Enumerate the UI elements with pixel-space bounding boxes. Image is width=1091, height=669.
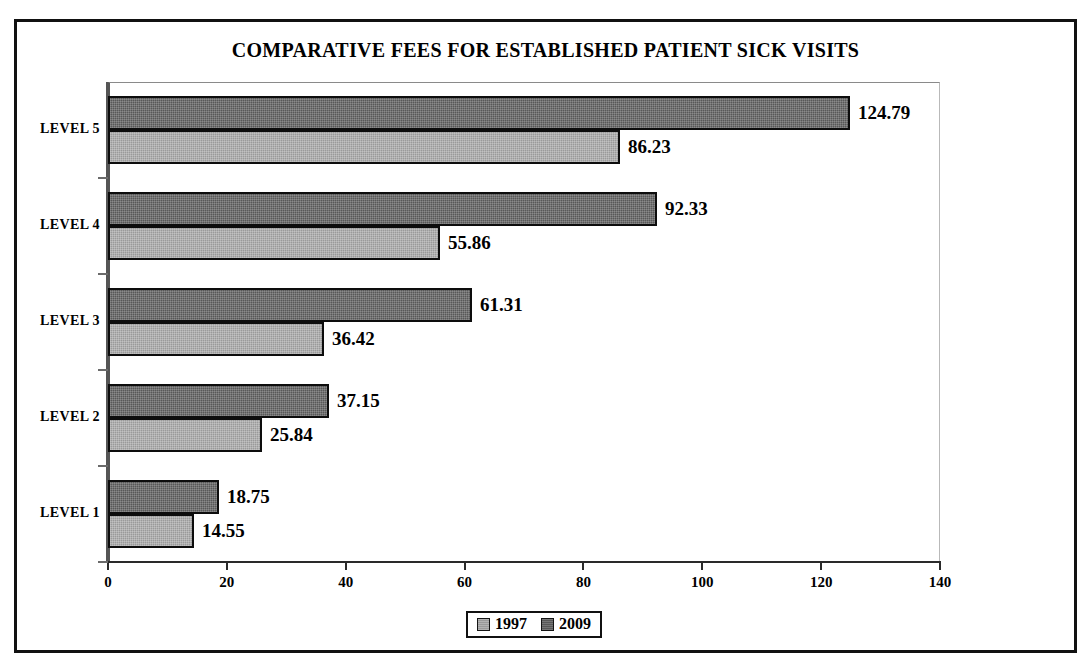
bar-2009-level-5[interactable] — [108, 96, 850, 130]
x-axis-tick — [345, 563, 347, 570]
x-axis-tick — [464, 563, 466, 570]
bar-2009-level-4[interactable] — [108, 192, 657, 226]
bar-row: 86.23 — [108, 130, 940, 164]
x-axis-tick — [226, 563, 228, 570]
legend-swatch-icon-1997 — [477, 618, 490, 631]
bar-value-label: 86.23 — [620, 130, 671, 164]
bar-row: 124.79 — [108, 96, 940, 130]
bar-row: 36.42 — [108, 322, 940, 356]
bar-row: 61.31 — [108, 288, 940, 322]
legend-swatch-icon-2009 — [541, 618, 554, 631]
bar-2009-level-1[interactable] — [108, 480, 219, 514]
chart-root: COMPARATIVE FEES FOR ESTABLISHED PATIENT… — [0, 0, 1091, 669]
bar-2009-level-3[interactable] — [108, 288, 472, 322]
x-axis-tick-label: 60 — [457, 574, 472, 591]
bar-row: 55.86 — [108, 226, 940, 260]
bar-row: 25.84 — [108, 418, 940, 452]
x-axis-tick-label: 20 — [219, 574, 234, 591]
chart-legend: 1997 2009 — [466, 611, 602, 638]
bar-value-label: 92.33 — [657, 192, 708, 226]
y-axis-tick — [98, 369, 108, 371]
bar-1997-level-1[interactable] — [108, 514, 194, 548]
x-axis-tick — [701, 563, 703, 570]
category-label-level-4: LEVEL 4 — [8, 217, 100, 233]
legend-label-2009: 2009 — [559, 616, 591, 632]
category-label-level-1: LEVEL 1 — [8, 505, 100, 521]
bar-1997-level-3[interactable] — [108, 322, 324, 356]
legend-item-1997[interactable]: 1997 — [477, 616, 527, 632]
x-axis-tick — [939, 563, 941, 570]
bar-1997-level-2[interactable] — [108, 418, 262, 452]
bar-row: 37.15 — [108, 384, 940, 418]
x-axis-tick-label: 140 — [929, 574, 952, 591]
x-axis-tick-label: 0 — [104, 574, 112, 591]
category-label-level-3: LEVEL 3 — [8, 313, 100, 329]
bar-value-label: 14.55 — [194, 514, 245, 548]
x-axis-tick — [820, 563, 822, 570]
bar-value-label: 61.31 — [472, 288, 523, 322]
bar-value-label: 18.75 — [219, 480, 270, 514]
bar-value-label: 36.42 — [324, 322, 375, 356]
bar-row: 14.55 — [108, 514, 940, 548]
x-axis-line — [108, 561, 941, 563]
bar-1997-level-5[interactable] — [108, 130, 620, 164]
y-axis-tick — [98, 177, 108, 179]
x-axis-tick-label: 80 — [576, 574, 591, 591]
y-axis-tick — [98, 273, 108, 275]
page-title: COMPARATIVE FEES FOR ESTABLISHED PATIENT… — [0, 39, 1091, 62]
bar-row: 18.75 — [108, 480, 940, 514]
bar-value-label: 25.84 — [262, 418, 313, 452]
x-axis-tick-label: 120 — [810, 574, 833, 591]
x-axis-tick — [107, 563, 109, 570]
bar-value-label: 55.86 — [440, 226, 491, 260]
x-axis-tick — [582, 563, 584, 570]
x-axis-tick-label: 40 — [338, 574, 353, 591]
bar-value-label: 124.79 — [850, 96, 910, 130]
legend-label-1997: 1997 — [495, 616, 527, 632]
legend-item-2009[interactable]: 2009 — [541, 616, 591, 632]
category-label-level-2: LEVEL 2 — [8, 409, 100, 425]
bar-value-label: 37.15 — [329, 384, 380, 418]
x-axis-tick-label: 100 — [691, 574, 714, 591]
bar-1997-level-4[interactable] — [108, 226, 440, 260]
bar-2009-level-2[interactable] — [108, 384, 329, 418]
bar-row: 92.33 — [108, 192, 940, 226]
y-axis-tick — [98, 465, 108, 467]
category-label-level-5: LEVEL 5 — [8, 121, 100, 137]
